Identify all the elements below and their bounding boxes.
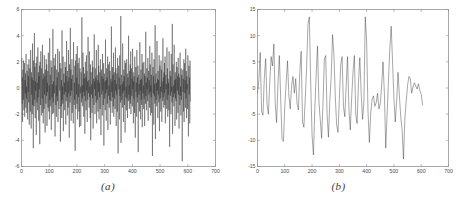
y-tick-label-a-6: 6 (17, 6, 20, 12)
x-tick-label-a-2: 200 (73, 168, 82, 174)
x-tick-label-a-1: 100 (45, 168, 54, 174)
y-tick-label-a-4: 2 (17, 59, 20, 65)
y-tick-label-b-0: -15 (248, 163, 256, 169)
x-tick-label-b-3: 300 (335, 168, 344, 174)
y-tick-label-b-3: 0 (253, 85, 256, 91)
x-tick-label-b-4: 400 (362, 168, 371, 174)
x-tick-label-a-5: 500 (156, 168, 165, 174)
x-tick-label-a-0: 0 (20, 168, 23, 174)
plot-panel-a: 0100200300400500600700-6-4-20246 (a) (0, 0, 228, 205)
y-tick-label-a-1: -4 (15, 137, 20, 143)
x-tick-label-b-6: 600 (417, 168, 426, 174)
x-tick-label-b-1: 100 (280, 168, 289, 174)
y-tick-label-b-1: -10 (248, 137, 256, 143)
x-tick-label-b-0: 0 (256, 168, 259, 174)
x-tick-label-b-5: 500 (390, 168, 399, 174)
y-tick-label-a-2: -2 (15, 111, 20, 117)
y-tick-label-b-4: 5 (253, 59, 256, 65)
y-tick-label-a-0: -6 (15, 163, 20, 169)
x-tick-label-a-3: 300 (100, 168, 109, 174)
x-tick-label-b-7: 700 (444, 168, 453, 174)
y-tick-label-b-2: -5 (251, 111, 256, 117)
x-tick-label-a-7: 700 (211, 168, 220, 174)
plot-b-canvas: 0100200300400500600700-15-10-5051015 (228, 0, 457, 205)
plot-panel-b: 0100200300400500600700-15-10-5051015 (b) (228, 0, 457, 205)
panel-b-caption: (b) (224, 180, 453, 192)
plot-a-canvas: 0100200300400500600700-6-4-20246 (0, 0, 228, 205)
figure-root: 0100200300400500600700-6-4-20246 (a) 010… (0, 0, 457, 205)
x-tick-label-a-6: 600 (183, 168, 192, 174)
y-tick-label-a-3: 0 (17, 85, 20, 91)
data-trace-b-0 (258, 17, 423, 159)
y-tick-label-a-5: 4 (17, 33, 20, 39)
x-tick-label-a-4: 400 (128, 168, 137, 174)
panel-a-caption: (a) (0, 180, 222, 192)
y-tick-label-b-5: 10 (250, 33, 256, 39)
y-tick-label-b-6: 15 (250, 6, 256, 12)
data-trace-a-0 (22, 16, 191, 161)
x-tick-label-b-2: 200 (308, 168, 317, 174)
